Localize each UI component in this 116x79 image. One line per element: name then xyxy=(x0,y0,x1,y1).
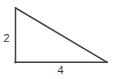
horizontal-leg-label: 4 xyxy=(54,65,67,76)
vertical-leg-label: 2 xyxy=(1,33,12,44)
triangle-diagram: 2 4 xyxy=(0,0,116,79)
hypotenuse-line xyxy=(16,8,108,62)
